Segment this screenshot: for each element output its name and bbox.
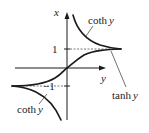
tick-label-minus-1: −1 — [43, 80, 55, 92]
tanh-func: tanh — [112, 89, 131, 101]
coth-lower-func: coth — [17, 103, 36, 115]
vertical-axis-label: x — [53, 6, 59, 18]
tanh-label: tanhy — [112, 89, 138, 101]
tick-label-1: 1 — [52, 43, 58, 55]
horizontal-axis-arrowhead — [99, 66, 106, 71]
vertical-axis-arrowhead — [65, 12, 70, 19]
coth-upper-leader — [86, 26, 93, 36]
coth-lower-var: y — [37, 103, 43, 115]
coth-upper-func: coth — [88, 14, 107, 26]
horizontal-axis-label: y — [100, 72, 106, 84]
coth-upper-label: cothy — [88, 14, 114, 26]
coth-upper-var: y — [108, 14, 114, 26]
tanh-leader — [111, 51, 126, 87]
tanh-var: y — [132, 89, 138, 101]
coth-lower-label: cothy — [17, 103, 43, 115]
hyperbolic-functions-diagram: x y 1 −1 cothy tanhy cothy — [0, 0, 149, 133]
